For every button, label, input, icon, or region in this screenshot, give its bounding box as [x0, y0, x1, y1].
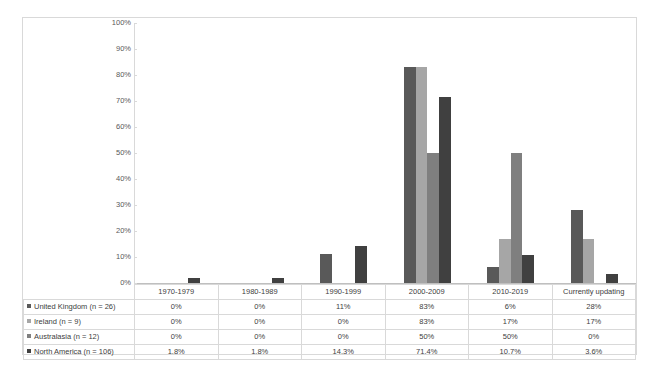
table-cell: 28% [552, 300, 636, 315]
bar-group [135, 23, 219, 283]
bar [487, 267, 499, 283]
y-axis-tick-label: 90% [87, 45, 131, 53]
y-axis-tick-mark [134, 231, 137, 232]
table-series-label: Australasia (n = 12) [24, 330, 135, 345]
table-row: Ireland (n = 9)0%0%0%83%17%17% [24, 315, 636, 330]
y-axis-tick-label: 60% [87, 123, 131, 131]
table-cell: 83% [385, 300, 469, 315]
table-cell: 0% [552, 330, 636, 345]
table-column-header: 1980-1989 [218, 285, 302, 300]
table-cell: 1.8% [218, 345, 302, 360]
table-cell: 0% [135, 300, 219, 315]
table-series-label: Ireland (n = 9) [24, 315, 135, 330]
legend-swatch-icon [27, 319, 31, 323]
table-cell: 0% [302, 330, 386, 345]
table-cell: 0% [218, 330, 302, 345]
bar [499, 239, 511, 283]
bar [355, 246, 367, 283]
table-series-label: North America (n = 106) [24, 345, 135, 360]
legend-label: Ireland (n = 9) [34, 317, 81, 326]
y-axis-tick-mark [134, 153, 137, 154]
y-axis-tick-mark [134, 49, 137, 50]
bar [272, 278, 284, 283]
legend-label: United Kingdom (n = 26) [34, 302, 116, 311]
bar-groups [135, 23, 636, 283]
y-axis-tick-mark [134, 75, 137, 76]
table-cell: 0% [302, 315, 386, 330]
table-cell: 11% [302, 300, 386, 315]
y-axis-tick-label: 10% [87, 253, 131, 261]
table-column-header: 2010-2019 [469, 285, 553, 300]
table-cell: 0% [218, 315, 302, 330]
chart-frame: 100%90%80%70%60%50%40%30%20%10%0% 1970-1… [22, 17, 637, 355]
y-axis-tick-mark [134, 257, 137, 258]
bar-group [302, 23, 386, 283]
bar [511, 153, 523, 283]
bar [427, 153, 439, 283]
y-axis-tick-mark [134, 101, 137, 102]
table-cell: 0% [135, 330, 219, 345]
y-axis-tick-mark [134, 127, 137, 128]
table-cell: 0% [218, 300, 302, 315]
bar [439, 97, 451, 283]
bar [583, 239, 595, 283]
table-series-label: United Kingdom (n = 26) [24, 300, 135, 315]
table-cell: 1.8% [135, 345, 219, 360]
bar [606, 274, 618, 283]
table-cell: 83% [385, 315, 469, 330]
table-column-header: 1990-1999 [302, 285, 386, 300]
bar [188, 278, 200, 283]
table-cell: 3.6% [552, 345, 636, 360]
table-cell: 17% [469, 315, 553, 330]
bar [404, 67, 416, 283]
y-axis-tick-label: 20% [87, 227, 131, 235]
y-axis-labels: 100%90%80%70%60%50%40%30%20%10%0% [83, 18, 131, 284]
table-column-header: 2000-2009 [385, 285, 469, 300]
table-corner-cell [24, 285, 135, 300]
legend-swatch-icon [27, 349, 31, 353]
bar-group [219, 23, 303, 283]
table-cell: 50% [469, 330, 553, 345]
data-table-body: 1970-19791980-19891990-19992000-20092010… [24, 285, 636, 360]
data-table: 1970-19791980-19891990-19992000-20092010… [23, 284, 636, 360]
plot-area: 100%90%80%70%60%50%40%30%20%10%0% [23, 18, 636, 284]
table-cell: 71.4% [385, 345, 469, 360]
table-cell: 10.7% [469, 345, 553, 360]
table-cell: 0% [135, 315, 219, 330]
y-axis-tick-label: 100% [87, 19, 131, 27]
y-axis-tick-mark [134, 23, 137, 24]
legend-swatch-icon [27, 334, 31, 338]
bar [571, 210, 583, 283]
table-row: United Kingdom (n = 26)0%0%11%83%6%28% [24, 300, 636, 315]
bar-group [386, 23, 470, 283]
y-axis-tick-mark [134, 205, 137, 206]
y-axis-tick-label: 40% [87, 175, 131, 183]
bar-group [469, 23, 553, 283]
y-axis-tick-label: 30% [87, 201, 131, 209]
table-row: North America (n = 106)1.8%1.8%14.3%71.4… [24, 345, 636, 360]
bar-group [553, 23, 637, 283]
table-row: Australasia (n = 12)0%0%0%50%50%0% [24, 330, 636, 345]
table-cell: 14.3% [302, 345, 386, 360]
table-cell: 17% [552, 315, 636, 330]
bar [320, 254, 332, 283]
y-axis-tick-label: 70% [87, 97, 131, 105]
table-column-header: 1970-1979 [135, 285, 219, 300]
legend-label: North America (n = 106) [34, 347, 114, 356]
legend-swatch-icon [27, 304, 31, 308]
y-axis-tick-label: 50% [87, 149, 131, 157]
bar [522, 255, 534, 283]
table-column-header: Currently updating [552, 285, 636, 300]
table-cell: 6% [469, 300, 553, 315]
y-axis-tick-label: 80% [87, 71, 131, 79]
bar [416, 67, 428, 283]
table-header-row: 1970-19791980-19891990-19992000-20092010… [24, 285, 636, 300]
y-axis-tick-mark [134, 179, 137, 180]
legend-label: Australasia (n = 12) [34, 332, 99, 341]
table-cell: 50% [385, 330, 469, 345]
